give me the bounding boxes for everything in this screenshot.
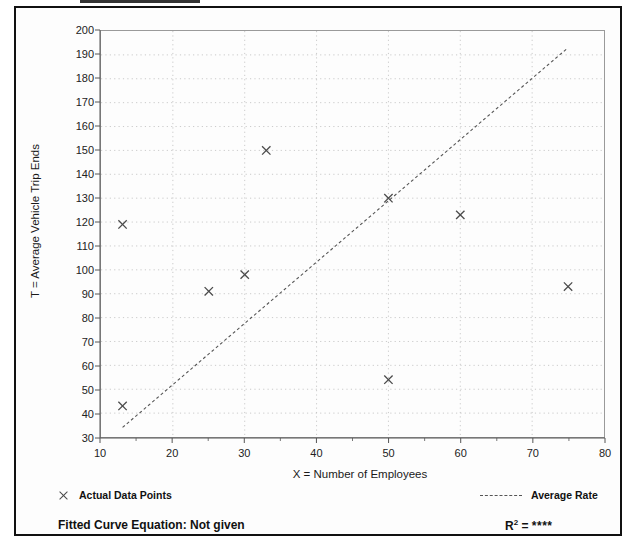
scatter-chart: 3040506070809010011012013014015016017018… [0, 0, 644, 553]
x-axis-title: X = Number of Employees [200, 468, 520, 480]
r-squared-value: R2 = **** [505, 518, 553, 533]
r-squared-stars: **** [532, 519, 553, 533]
dashed-line-icon [480, 495, 522, 496]
x-marker-icon [58, 490, 69, 501]
fitted-curve-equation: Fitted Curve Equation: Not given [58, 518, 245, 532]
legend-average-rate: Average Rate [480, 489, 598, 501]
legend-average-rate-label: Average Rate [531, 489, 598, 501]
r-squared-prefix: R [505, 519, 514, 533]
r-squared-equals: = [518, 519, 532, 533]
legend-data-points: Actual Data Points [58, 489, 172, 501]
legend-data-points-label: Actual Data Points [79, 489, 172, 501]
y-axis-title: T = Average Vehicle Trip Ends [29, 61, 41, 381]
